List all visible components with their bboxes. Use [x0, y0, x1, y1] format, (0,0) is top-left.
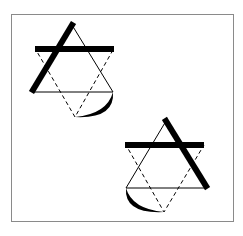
inverted-dashed-triangle [126, 145, 204, 212]
diagram-canvas [0, 0, 243, 236]
crescent-arc [75, 92, 113, 117]
crescent-arc [126, 188, 164, 212]
figure-top-left [33, 25, 114, 117]
upright-triangle [126, 121, 206, 188]
thick-side-bar [166, 121, 206, 186]
thick-side-bar [33, 25, 72, 90]
figures-group [33, 25, 206, 212]
figure-bottom-right [125, 121, 206, 212]
upright-triangle [33, 25, 113, 92]
diagram-frame [12, 15, 234, 222]
